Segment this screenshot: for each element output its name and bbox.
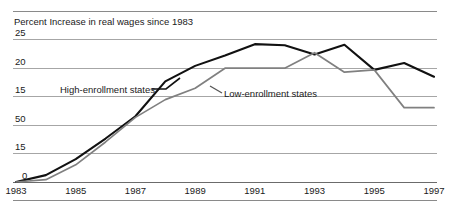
annotation-leader-lines	[0, 0, 449, 210]
leader-line-low-enrollment	[210, 86, 222, 93]
bottom-divider	[13, 200, 437, 201]
leader-line-high-enrollment	[152, 78, 180, 89]
wage-increase-line-chart: Percent Increase in real wages since 198…	[0, 0, 449, 210]
